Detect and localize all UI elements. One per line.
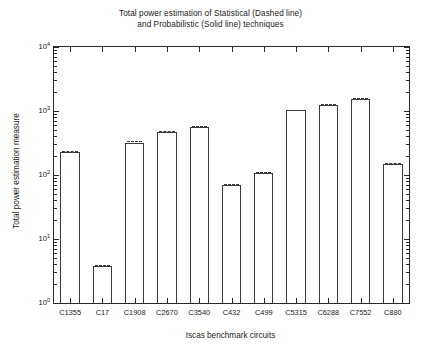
bar (222, 185, 241, 303)
x-axis-tick-label: C2670 (156, 308, 178, 317)
y-axis-tick (404, 303, 409, 304)
dashed-value-marker (321, 104, 336, 105)
y-axis-minor-tick (406, 136, 409, 137)
y-axis-minor-tick (54, 253, 57, 254)
x-axis-tick-label: C1355 (59, 308, 81, 317)
x-axis-tick (328, 47, 329, 52)
y-axis-minor-tick (54, 220, 57, 221)
y-axis-minor-tick (406, 264, 409, 265)
x-axis-tick (167, 47, 168, 52)
y-axis-minor-tick (406, 284, 409, 285)
y-axis-tick (54, 239, 59, 240)
chart-title: Total power estimation of Statistical (D… (0, 8, 421, 30)
y-axis-minor-tick (54, 200, 57, 201)
x-axis-tick (135, 47, 136, 52)
y-axis-minor-tick (406, 200, 409, 201)
y-axis-minor-tick (406, 72, 409, 73)
x-axis-tick (393, 47, 394, 52)
y-axis-minor-tick (406, 80, 409, 81)
dashed-value-marker (192, 126, 207, 127)
y-axis-label: Total power estimation measure (10, 40, 24, 302)
x-axis-tick-label: C5315 (285, 308, 307, 317)
y-axis-minor-tick (406, 185, 409, 186)
y-axis-minor-tick (54, 249, 57, 250)
x-axis-tick (264, 47, 265, 52)
x-axis-tick-label: C7552 (350, 308, 372, 317)
x-axis-tick-label: C432 (223, 308, 241, 317)
y-axis-minor-tick (406, 117, 409, 118)
x-axis-tick-label: C6288 (317, 308, 339, 317)
y-axis-minor-tick (406, 53, 409, 54)
y-axis-minor-tick (406, 258, 409, 259)
x-axis-label: Iscas benchmark circuits (53, 331, 408, 340)
y-axis-minor-tick (406, 144, 409, 145)
y-axis-minor-tick (54, 72, 57, 73)
y-axis-minor-tick (54, 258, 57, 259)
x-axis-tick (232, 47, 233, 52)
y-axis-minor-tick (54, 185, 57, 186)
y-axis-minor-tick (54, 130, 57, 131)
x-axis-tick (296, 47, 297, 52)
x-axis-tick-label: C880 (384, 308, 402, 317)
y-axis-minor-tick (406, 130, 409, 131)
y-axis-minor-tick (406, 61, 409, 62)
y-axis-minor-tick (54, 136, 57, 137)
y-axis-minor-tick (406, 66, 409, 67)
bar (383, 164, 402, 303)
y-axis-minor-tick (54, 61, 57, 62)
x-axis-tick-label: C499 (255, 308, 273, 317)
x-axis-tick-label: C3540 (188, 308, 210, 317)
y-axis-minor-tick (54, 114, 57, 115)
dashed-value-marker (159, 131, 174, 132)
y-axis-tick (404, 47, 409, 48)
y-axis-minor-tick (54, 284, 57, 285)
y-axis-tick (54, 303, 59, 304)
chart-title-line-2: and Probabilistic (Solid line) technique… (0, 19, 421, 30)
bar (319, 105, 338, 303)
y-axis-tick (54, 175, 59, 176)
y-axis-minor-tick (54, 92, 57, 93)
y-axis-tick-label: 100 (38, 299, 50, 307)
y-axis-tick (404, 175, 409, 176)
y-axis-tick (54, 47, 59, 48)
x-axis-tick (70, 47, 71, 52)
y-axis-minor-tick (54, 208, 57, 209)
y-axis-minor-tick (406, 242, 409, 243)
y-axis-minor-tick (54, 121, 57, 122)
bar (286, 110, 305, 303)
bar (125, 143, 144, 303)
dashed-value-marker (385, 163, 400, 164)
y-axis-minor-tick (54, 66, 57, 67)
y-axis-minor-tick (406, 194, 409, 195)
y-axis-tick-label: 104 (38, 43, 50, 51)
y-axis-minor-tick (406, 114, 409, 115)
y-axis-tick (404, 239, 409, 240)
y-axis-tick (54, 111, 59, 112)
y-axis-minor-tick (54, 144, 57, 145)
y-axis-minor-tick (406, 208, 409, 209)
plot-area: 100101102103104C1355C17C1908C2670C3540C4… (53, 46, 410, 304)
bar (351, 99, 370, 303)
bar (254, 173, 273, 303)
bar (190, 127, 209, 303)
x-axis-tick (102, 47, 103, 52)
y-axis-tick-label: 101 (38, 235, 50, 243)
y-axis-minor-tick (54, 53, 57, 54)
y-axis-minor-tick (406, 272, 409, 273)
y-axis-tick-label: 103 (38, 107, 50, 115)
y-axis-minor-tick (406, 57, 409, 58)
y-axis-minor-tick (54, 264, 57, 265)
y-axis-minor-tick (406, 189, 409, 190)
y-axis-minor-tick (54, 57, 57, 58)
y-axis-minor-tick (406, 50, 409, 51)
y-axis-minor-tick (406, 125, 409, 126)
dashed-value-marker (127, 141, 142, 142)
dashed-value-marker (288, 110, 303, 111)
chart-title-line-1: Total power estimation of Statistical (D… (0, 8, 421, 19)
dashed-value-marker (353, 98, 368, 99)
y-axis-minor-tick (406, 220, 409, 221)
y-axis-minor-tick (54, 194, 57, 195)
y-axis-minor-tick (54, 272, 57, 273)
dashed-value-marker (95, 265, 110, 266)
bar (157, 132, 176, 303)
